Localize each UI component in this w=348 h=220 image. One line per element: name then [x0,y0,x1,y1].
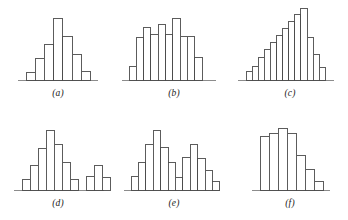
histogram-bar [260,136,269,190]
histogram-e-svg [116,110,232,206]
histogram-bar [258,57,264,80]
histogram-bar [86,176,94,190]
histogram-bar [295,14,301,80]
histogram-bar [151,34,158,80]
histogram-shapes-figure: (a) (b) (c) (d) (e) [0,0,348,220]
panel-a-caption: (a) [0,88,116,98]
histogram-bar [136,37,143,80]
histogram-bar [173,18,180,80]
panel-f-caption: (f) [232,198,348,208]
histogram-bar [35,58,44,80]
histogram-bar [264,49,270,80]
panel-row-top: (a) (b) (c) [0,0,348,110]
histogram-c-svg [232,0,348,96]
histogram-b-svg [116,0,232,96]
histogram-bar [270,42,276,80]
histogram-bar [161,148,168,190]
histogram-bar [63,36,72,80]
panel-e-caption: (e) [116,198,232,208]
histogram-bar [314,181,323,190]
histogram-bar [296,155,305,190]
histogram-bar [301,8,307,80]
histogram-bar [22,179,30,190]
histogram-bar [289,21,295,80]
histogram-bar [70,179,78,190]
histogram-bar [183,157,190,190]
histogram-bar [54,144,62,190]
histogram-bar [129,66,136,80]
panel-d-caption: (d) [0,198,116,208]
histogram-bar [166,34,173,80]
histogram-bar [138,163,145,190]
histogram-bar [46,130,54,190]
panel-c: (c) [232,0,348,110]
panel-b-caption: (b) [116,88,232,98]
histogram-bar [54,18,63,80]
histogram-bar [305,169,314,190]
histogram-bar [190,145,197,190]
histogram-bar [158,24,165,80]
histogram-a-svg [0,0,116,96]
histogram-bar [205,170,212,190]
panel-b: (b) [116,0,232,110]
histogram-bar [212,182,219,190]
histogram-bar [252,66,258,80]
histogram-bar [180,36,187,80]
histogram-bar [168,163,175,190]
histogram-bar [313,54,319,80]
histogram-bar [277,35,283,80]
histogram-f-svg [232,110,348,206]
histogram-bar [287,133,296,190]
histogram-bar [175,177,182,190]
histogram-bar [81,71,90,80]
panel-c-caption: (c) [232,88,348,98]
panel-f: (f) [232,110,348,220]
panel-a: (a) [0,0,116,110]
histogram-bar [72,54,81,80]
histogram-bar [146,145,153,190]
histogram-bar [307,37,313,80]
histogram-bar [131,176,138,190]
panel-row-bottom: (d) (e) (f) [0,110,348,220]
histogram-bar [94,165,102,190]
histogram-bar [195,58,202,80]
histogram-bar [278,128,287,190]
histogram-bar [283,28,289,80]
panel-d: (d) [0,110,116,220]
histogram-bar [153,130,160,190]
histogram-bar [144,28,151,80]
histogram-bar [30,165,38,190]
histogram-bar [38,148,46,190]
histogram-d-svg [0,110,116,206]
histogram-bar [102,177,110,190]
histogram-bar [62,162,70,190]
histogram-bar [187,36,194,80]
histogram-bar [44,44,53,80]
panel-e: (e) [116,110,232,220]
histogram-bar [246,71,252,80]
histogram-bar [269,133,278,190]
histogram-bar [319,67,325,80]
histogram-bar [198,158,205,190]
histogram-bar [26,72,35,80]
